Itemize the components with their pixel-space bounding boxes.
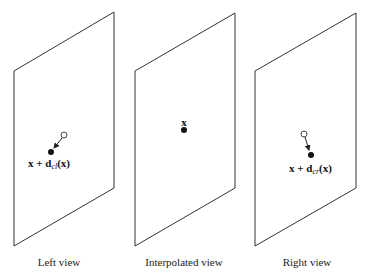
right-point-label: x + dcr(x) [289, 162, 332, 176]
right-disparity-arrow-icon [305, 137, 309, 150]
right-view-panel: x + dcr(x) Right view [255, 13, 356, 268]
left-image-plane [14, 12, 114, 246]
right-view-caption: Right view [283, 256, 332, 268]
right-image-plane [255, 13, 356, 246]
right-original-point-icon [301, 131, 307, 137]
interpolated-point-label: x [181, 116, 187, 128]
left-original-point-icon [61, 132, 67, 138]
view-interpolation-diagram: x + dcl(x) Left view x Interpolated view… [0, 0, 366, 277]
left-point-label: x + dcl(x) [28, 157, 70, 171]
left-view-panel: x + dcl(x) Left view [14, 12, 114, 268]
left-mapped-point-icon [48, 149, 54, 155]
interpolated-view-panel: x Interpolated view [135, 13, 235, 268]
interpolated-view-caption: Interpolated view [145, 256, 222, 268]
interpolated-point-icon [181, 127, 187, 133]
left-disparity-arrow-icon [54, 138, 62, 148]
left-view-caption: Left view [38, 256, 81, 268]
right-mapped-point-icon [308, 152, 314, 158]
